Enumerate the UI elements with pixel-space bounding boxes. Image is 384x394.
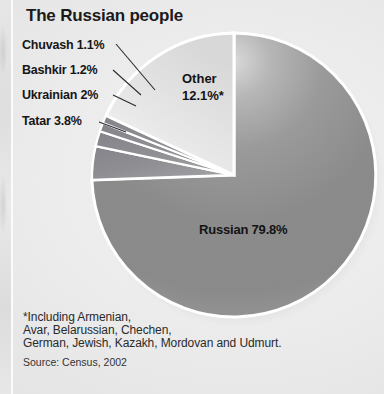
slice-label-bashkir: Bashkir 1.2% <box>22 63 97 77</box>
slice-label-russian: Russian 79.8% <box>199 222 287 237</box>
slice-label-chuvash: Chuvash 1.1% <box>22 38 104 52</box>
source-caption: Source: Census, 2002 <box>23 356 127 368</box>
footnote-line-3: German, Jewish, Kazakh, Mordovan and Udm… <box>23 336 281 350</box>
slice-label-other: Other 12.1%* <box>182 70 224 104</box>
slice-label-tatar: Tatar 3.8% <box>22 114 82 128</box>
footnote-line-1: *Including Armenian, <box>23 310 131 324</box>
infographic-panel: The Russian people <box>0 0 384 394</box>
slice-label-other-line2: 12.1%* <box>182 87 224 104</box>
slice-label-other-line1: Other <box>182 70 224 87</box>
footnote-line-2: Avar, Belarussian, Chechen, <box>23 323 172 337</box>
slice-label-ukrainian: Ukrainian 2% <box>22 88 98 102</box>
